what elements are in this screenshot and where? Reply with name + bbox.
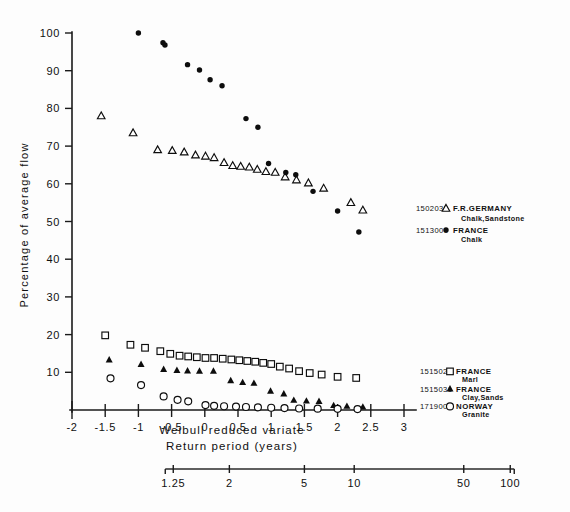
axis-labels-layer: Weibull reduced variateReturn period (ye… <box>18 142 305 452</box>
return-period-tick-label: 50 <box>457 477 470 489</box>
return-period-tick-label: 10 <box>347 477 360 489</box>
data-point <box>142 344 149 351</box>
legend-geology-label: Chalk,Sandstone <box>461 214 525 223</box>
legend-marker-filled-circle <box>443 227 448 232</box>
data-point <box>267 387 274 393</box>
data-point <box>318 371 325 378</box>
data-point <box>343 402 350 408</box>
data-point <box>210 367 217 373</box>
data-point <box>194 354 201 361</box>
data-point <box>185 62 190 67</box>
x-tick-label: 2.5 <box>362 421 379 433</box>
data-point <box>286 365 293 372</box>
data-point <box>243 116 248 121</box>
data-point <box>219 83 224 88</box>
legend-geology-label: Clay,Sands <box>462 393 504 402</box>
data-point <box>185 353 192 360</box>
data-point <box>260 360 267 367</box>
return-period-axis-title: Return period (years) <box>166 440 298 452</box>
data-point <box>356 229 361 234</box>
data-point <box>210 154 218 161</box>
legend-entry-1515031[interactable]: 1515031FRANCEClay,Sands <box>420 385 504 402</box>
data-point <box>176 352 183 359</box>
legend-marker-open-square <box>447 368 454 375</box>
data-point <box>277 363 284 370</box>
data-point <box>320 184 328 191</box>
data-point <box>162 42 167 47</box>
x-tick-label: 2 <box>334 421 341 433</box>
data-point <box>220 159 228 166</box>
data-point <box>335 208 340 213</box>
data-point <box>354 406 361 413</box>
data-point <box>229 162 237 169</box>
data-point <box>283 170 288 175</box>
legend-geology-label: Chalk <box>461 235 482 244</box>
legend-entry-1515024[interactable]: 1515024FRANCEMarl <box>420 367 492 384</box>
data-point <box>207 77 212 82</box>
data-point <box>160 393 167 400</box>
return-period-tick-label: 5 <box>301 477 308 489</box>
data-point <box>252 358 259 365</box>
data-point <box>316 398 323 404</box>
data-point <box>262 168 270 175</box>
data-point <box>127 341 134 348</box>
data-point <box>160 365 167 371</box>
data-point <box>184 367 191 373</box>
data-point <box>237 162 245 169</box>
legend-entry-1513006[interactable]: 1513006FRANCEChalk <box>416 226 489 245</box>
series-1515024 <box>102 332 360 381</box>
data-point <box>303 397 310 403</box>
data-point <box>255 125 260 130</box>
data-point <box>306 370 313 377</box>
data-point <box>211 355 218 362</box>
data-point <box>280 390 287 396</box>
series-1502035 <box>97 112 366 213</box>
series-1513006 <box>136 30 362 234</box>
legend-entry-1719005[interactable]: 1719005NORWAYGranite <box>420 402 494 419</box>
y-tick-label: 80 <box>47 102 60 114</box>
data-point <box>107 375 114 382</box>
legend-geology-label: Marl <box>462 375 478 384</box>
data-point <box>192 151 200 158</box>
data-point <box>359 206 367 213</box>
data-point <box>157 348 164 355</box>
x-tick-label: -2 <box>67 421 78 433</box>
data-point <box>233 403 240 410</box>
y-tick-label: 30 <box>47 291 60 303</box>
y-tick-label: 50 <box>47 216 60 228</box>
chart-canvas: 102030405060708090100 -2-1.5-1-0.500.511… <box>0 0 570 512</box>
data-point <box>334 405 341 412</box>
x-tick-label: -1 <box>133 421 144 433</box>
data-point <box>202 402 209 409</box>
legend-entry-1502035[interactable]: 1502035F.R.GERMANYChalk,Sandstone <box>416 204 525 223</box>
data-point <box>180 148 188 155</box>
data-point <box>102 332 109 339</box>
data-point <box>347 199 355 206</box>
x-tick-label: 3 <box>401 421 408 433</box>
legend-geology-label: Granite <box>462 410 490 419</box>
x-tick-label: -1.5 <box>95 421 116 433</box>
y-axis: 102030405060708090100 <box>40 27 72 412</box>
data-point <box>266 161 271 166</box>
data-point <box>197 67 202 72</box>
return-period-tick-label: 100 <box>500 477 520 489</box>
data-point <box>106 356 113 362</box>
x-axis-title: Weibull reduced variate <box>159 424 304 436</box>
data-point <box>227 377 234 383</box>
legend-country-label: F.R.GERMANY <box>453 204 513 213</box>
data-point <box>97 112 105 119</box>
flow-duration-chart-figure: 102030405060708090100 -2-1.5-1-0.500.511… <box>0 0 570 512</box>
y-tick-label: 60 <box>47 178 60 190</box>
data-point <box>138 382 145 389</box>
data-point <box>293 172 298 177</box>
y-tick-label: 90 <box>47 65 60 77</box>
data-point <box>268 361 275 368</box>
data-point <box>353 375 360 382</box>
data-point <box>154 146 162 153</box>
data-point <box>239 379 246 385</box>
return-period-tick-label: 2 <box>226 477 233 489</box>
data-point <box>196 367 203 373</box>
legend-marker-open-circle <box>447 403 454 410</box>
y-tick-label: 20 <box>47 329 60 341</box>
legend-country-label: FRANCE <box>453 226 489 235</box>
